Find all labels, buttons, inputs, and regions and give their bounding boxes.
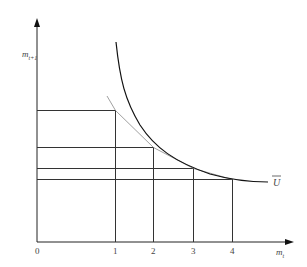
- curve-label: U: [273, 178, 280, 188]
- diagram-canvas: [0, 0, 307, 267]
- x-axis-label-subscript: t: [283, 253, 285, 259]
- origin-label: 0: [35, 247, 40, 256]
- indifference-curve: [116, 42, 268, 182]
- x-axis-label: mt: [276, 248, 284, 259]
- x-tick-3: 3: [191, 247, 196, 256]
- x-tick-1: 1: [113, 247, 118, 256]
- x-tick-2: 2: [151, 247, 156, 256]
- y-axis-label-subscript: t+1: [29, 55, 38, 61]
- chord-segments: [107, 96, 233, 180]
- y-axis-label: mt+1: [22, 50, 37, 61]
- x-tick-4: 4: [230, 247, 235, 256]
- y-axis-arrow-icon: [34, 18, 40, 27]
- x-axis-arrow-icon: [285, 239, 294, 245]
